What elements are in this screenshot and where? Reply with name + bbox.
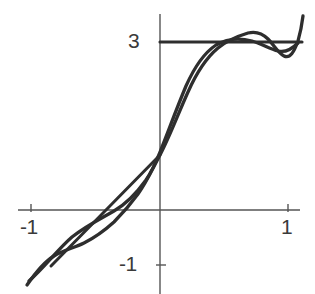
x-axis-tick-label-negative-one: -1 (20, 216, 38, 237)
plot-canvas (0, 0, 315, 294)
plot-figure: -1 1 3 -1 (0, 0, 315, 294)
y-axis-tick-label-three: 3 (128, 30, 139, 51)
x-axis-tick-label-positive-one: 1 (281, 216, 292, 237)
plot-background (0, 0, 315, 294)
y-axis-tick-label-negative-one: -1 (119, 253, 137, 274)
